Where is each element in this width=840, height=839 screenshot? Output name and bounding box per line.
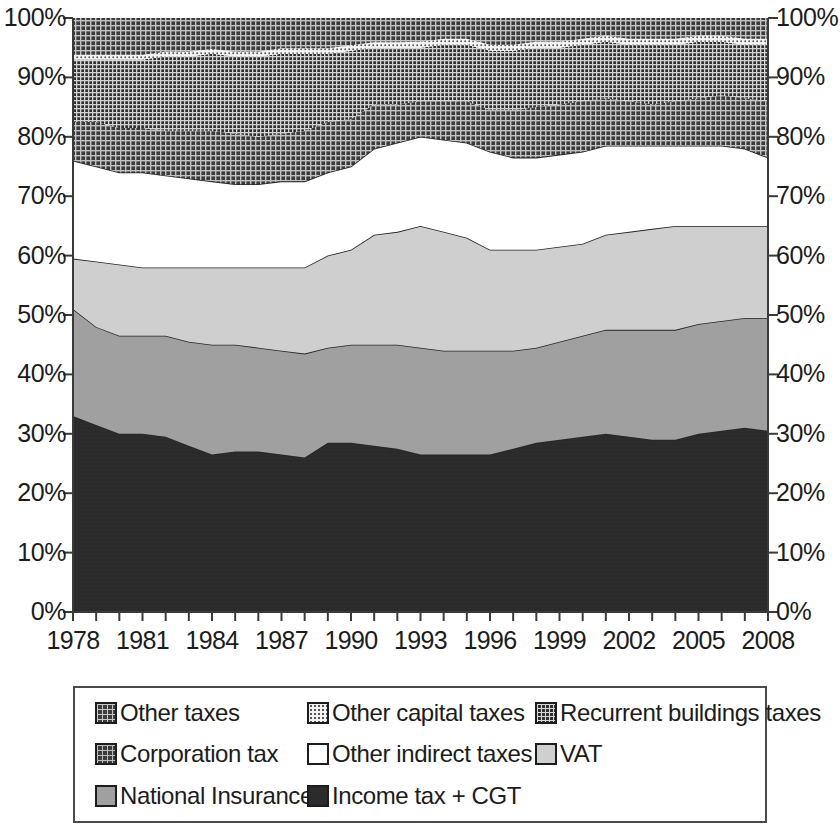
y-axis-left-tick-label: 10% [17, 540, 66, 565]
legend-swatch-icon-other-indirect [307, 743, 329, 765]
y-axis-left-tick-label: 60% [17, 243, 66, 268]
legend-item-other-capital[interactable]: Other capital taxes [307, 701, 535, 725]
legend-item-other-taxes[interactable]: Other taxes [95, 701, 307, 725]
legend-swatch-icon-ni [95, 785, 117, 807]
y-axis-right-tick-label: 70% [776, 183, 825, 208]
legend-label: Recurrent buildings taxes [560, 701, 821, 725]
area-series-group [73, 18, 768, 612]
legend-swatch-icon-other-capital [307, 702, 329, 724]
x-axis-tick-label: 1990 [324, 628, 377, 653]
legend-item-income[interactable]: Income tax + CGT [307, 784, 535, 808]
legend-swatch-icon-corporation [95, 743, 117, 765]
legend-label: National Insurance [120, 784, 313, 808]
legend-item-other-indirect[interactable]: Other indirect taxes [307, 742, 535, 766]
x-axis-tick-label: 1984 [185, 628, 238, 653]
legend-label: Income tax + CGT [332, 784, 521, 808]
x-axis-tick-label: 1981 [116, 628, 169, 653]
legend-swatch-icon-vat [535, 743, 557, 765]
y-axis-right-tick-label: 0% [776, 599, 811, 624]
x-axis-tick-label: 1978 [46, 628, 99, 653]
legend-swatch-icon-other-taxes [95, 702, 117, 724]
y-axis-right-tick-label: 10% [776, 540, 825, 565]
legend-swatch-icon-income [307, 785, 329, 807]
legend-grid: Other taxesOther capital taxesRecurrent … [75, 688, 765, 821]
legend-label: Other capital taxes [332, 701, 525, 725]
x-axis-tick-label: 1999 [533, 628, 586, 653]
legend-label: Other indirect taxes [332, 742, 532, 766]
legend-item-vat[interactable]: VAT [535, 742, 821, 766]
y-axis-left-tick-label: 80% [17, 124, 66, 149]
plot-canvas [0, 0, 840, 660]
x-axis-tick-label: 1996 [463, 628, 516, 653]
x-axis-tick-label: 2008 [741, 628, 794, 653]
stacked-area-chart: 100%90%80%70%60%50%40%30%20%10%0% 100%90… [0, 0, 840, 660]
legend-label: Corporation tax [120, 742, 278, 766]
x-axis-tick-label: 1993 [394, 628, 447, 653]
y-axis-right-tick-label: 80% [776, 124, 825, 149]
y-axis-left-tick-label: 0% [31, 599, 66, 624]
y-axis-left-tick-label: 100% [4, 5, 66, 30]
x-axis-tick-label: 2005 [672, 628, 725, 653]
y-axis-left-tick-label: 90% [17, 64, 66, 89]
legend-item-corporation[interactable]: Corporation tax [95, 742, 307, 766]
y-axis-left-tick-label: 50% [17, 302, 66, 327]
y-axis-left-tick-label: 20% [17, 480, 66, 505]
y-axis-left-tick-label: 70% [17, 183, 66, 208]
y-axis-right-tick-label: 30% [776, 421, 825, 446]
legend-item-recurrent[interactable]: Recurrent buildings taxes [535, 701, 821, 725]
y-axis-right-tick-label: 60% [776, 243, 825, 268]
y-axis-right-tick-label: 100% [776, 5, 838, 30]
y-axis-left-tick-label: 40% [17, 361, 66, 386]
legend-swatch-icon-recurrent [535, 702, 557, 724]
chart-legend: Other taxesOther capital taxesRecurrent … [73, 686, 767, 823]
y-axis-right-tick-label: 20% [776, 480, 825, 505]
legend-item-ni[interactable]: National Insurance [95, 784, 307, 808]
legend-label: Other taxes [120, 701, 240, 725]
legend-label: VAT [560, 742, 602, 766]
x-axis-tick-label: 1987 [255, 628, 308, 653]
y-axis-right-tick-label: 50% [776, 302, 825, 327]
x-axis-tick-label: 2002 [602, 628, 655, 653]
y-axis-right-tick-label: 90% [776, 64, 825, 89]
y-axis-right-tick-label: 40% [776, 361, 825, 386]
chart-page: 100%90%80%70%60%50%40%30%20%10%0% 100%90… [0, 0, 840, 839]
y-axis-left-tick-label: 30% [17, 421, 66, 446]
